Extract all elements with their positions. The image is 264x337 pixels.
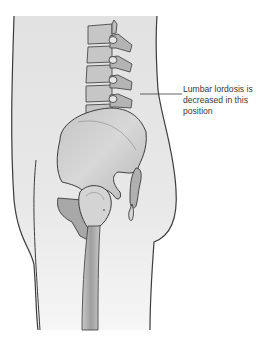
annotation-line-2: decreased in this xyxy=(183,95,263,106)
annotation-line-3: position xyxy=(183,106,263,117)
annotation-line-1: Lumbar lordosis is xyxy=(183,84,263,95)
figure-illustration xyxy=(0,0,264,337)
annotation-label: Lumbar lordosis is decreased in this pos… xyxy=(183,84,263,117)
